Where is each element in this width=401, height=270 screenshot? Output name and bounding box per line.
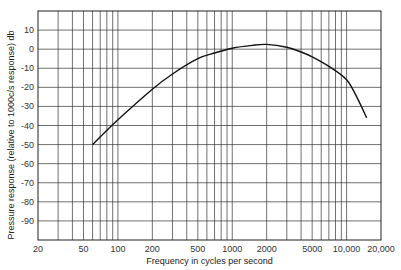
y-tick-label: -80 <box>21 197 34 207</box>
x-tick-label: 500 <box>190 244 205 254</box>
y-axis-label-text: Pressure response (relative to 1000c/s r… <box>6 30 16 239</box>
chart-svg: 100-10-20-30-40-50-60-70-80-90 205010020… <box>0 0 401 270</box>
x-axis-label: Frequency in cycles per second <box>38 256 381 266</box>
response-curve <box>93 44 367 144</box>
x-axis-ticks: 205010020050010002000500010,00020,000 <box>33 244 395 254</box>
x-tick-label: 100 <box>110 244 125 254</box>
x-tick-label: 200 <box>145 244 160 254</box>
x-tick-label: 2000 <box>257 244 277 254</box>
y-tick-label: -40 <box>21 121 34 131</box>
y-tick-label: -70 <box>21 178 34 188</box>
x-tick-label: 20 <box>33 244 43 254</box>
x-tick-label: 10,000 <box>333 244 361 254</box>
y-tick-label: 0 <box>29 44 34 54</box>
x-tick-label: 50 <box>78 244 88 254</box>
y-tick-label: 10 <box>24 25 34 35</box>
y-tick-label: -60 <box>21 159 34 169</box>
y-axis-ticks: 100-10-20-30-40-50-60-70-80-90 <box>21 25 34 226</box>
x-tick-label: 20,000 <box>367 244 395 254</box>
x-tick-label: 5000 <box>302 244 322 254</box>
grid <box>38 11 381 240</box>
x-tick-label: 1000 <box>222 244 242 254</box>
y-axis-label: Pressure response (relative to 1000c/s r… <box>2 20 20 250</box>
y-tick-label: -50 <box>21 140 34 150</box>
y-tick-label: -20 <box>21 82 34 92</box>
y-tick-label: -10 <box>21 63 34 73</box>
y-tick-label: -30 <box>21 101 34 111</box>
y-tick-label: -90 <box>21 216 34 226</box>
